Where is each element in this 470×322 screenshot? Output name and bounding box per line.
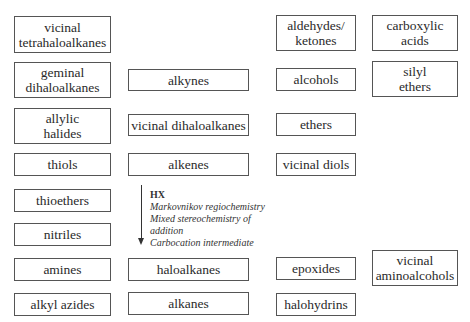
compound-label: silyl [399, 64, 431, 79]
compound-box-vicinal-diols: vicinal diols [276, 153, 356, 176]
compound-box-thiols: thiols [14, 153, 111, 176]
reaction-arrow-head-icon [138, 238, 144, 245]
compound-label: nitriles [44, 227, 82, 242]
compound-label: alkenes [168, 157, 208, 172]
compound-label: aminoalcohols [376, 268, 455, 283]
compound-label: carboxylic [387, 18, 444, 33]
compound-label: acids [387, 33, 444, 48]
compound-label: aldehydes/ [287, 18, 345, 33]
compound-label: ketones [287, 33, 345, 48]
compound-box-thioethers: thioethers [14, 189, 111, 212]
compound-label: dihaloalkanes [25, 80, 99, 95]
compound-box-carboxylic-acids: carboxylicacids [372, 15, 458, 51]
compound-box-ethers: ethers [276, 113, 356, 136]
compound-label: vicinal [19, 20, 107, 35]
compound-label: tetrahaloalkanes [19, 35, 107, 50]
compound-label: halohydrins [284, 297, 348, 312]
compound-box-geminal-dihaloalkanes: geminaldihaloalkanes [14, 62, 111, 98]
compound-box-alkynes: alkynes [128, 69, 249, 91]
reaction-arrow-shaft [141, 185, 142, 239]
compound-label: alkynes [168, 73, 209, 88]
condition-note: Mixed stereochemistry of [150, 213, 265, 225]
compound-label: alkanes [168, 296, 208, 311]
compound-label: haloalkanes [157, 262, 221, 277]
compound-label: halides [43, 126, 81, 141]
compound-label: thiols [47, 157, 77, 172]
compound-label: thioethers [36, 193, 89, 208]
condition-note: addition [150, 225, 265, 237]
reagent-label: HX [150, 189, 265, 201]
condition-note: Markovnikov regiochemistry [150, 201, 265, 213]
compound-label: geminal [25, 65, 99, 80]
compound-box-vicinal-aminoalcohols: vicinalaminoalcohols [372, 250, 458, 286]
compound-box-allylic-halides: allylichalides [14, 108, 111, 144]
compound-box-alkyl-azides: alkyl azides [14, 293, 111, 316]
compound-box-haloalkanes: haloalkanes [128, 258, 249, 281]
compound-label: amines [43, 262, 81, 277]
condition-note: Carbocation intermediate [150, 237, 265, 249]
compound-box-halohydrins: halohydrins [276, 293, 356, 316]
compound-box-silyl-ethers: silylethers [372, 61, 458, 97]
compound-box-vicinal-tetrahaloalkanes: vicinaltetrahaloalkanes [14, 16, 111, 53]
compound-label: vicinal [376, 253, 455, 268]
reaction-conditions: HX Markovnikov regiochemistry Mixed ster… [150, 189, 265, 249]
compound-label: alkyl azides [30, 297, 94, 312]
compound-box-alcohols: alcohols [276, 68, 356, 91]
compound-label: vicinal dihaloalkanes [131, 118, 245, 133]
compound-box-vicinal-dihaloalkanes: vicinal dihaloalkanes [128, 114, 249, 136]
compound-box-amines: amines [14, 258, 111, 281]
compound-label: vicinal diols [283, 157, 349, 172]
compound-label: alcohols [294, 72, 339, 87]
compound-label: ethers [399, 79, 431, 94]
compound-box-epoxides: epoxides [276, 257, 356, 280]
compound-box-alkenes: alkenes [128, 153, 249, 176]
compound-box-alkanes: alkanes [128, 292, 249, 315]
compound-label: allylic [43, 111, 81, 126]
compound-box-aldehydes-ketones: aldehydes/ketones [276, 15, 356, 51]
compound-label: ethers [300, 117, 332, 132]
compound-box-nitriles: nitriles [14, 223, 111, 246]
compound-label: epoxides [292, 261, 340, 276]
